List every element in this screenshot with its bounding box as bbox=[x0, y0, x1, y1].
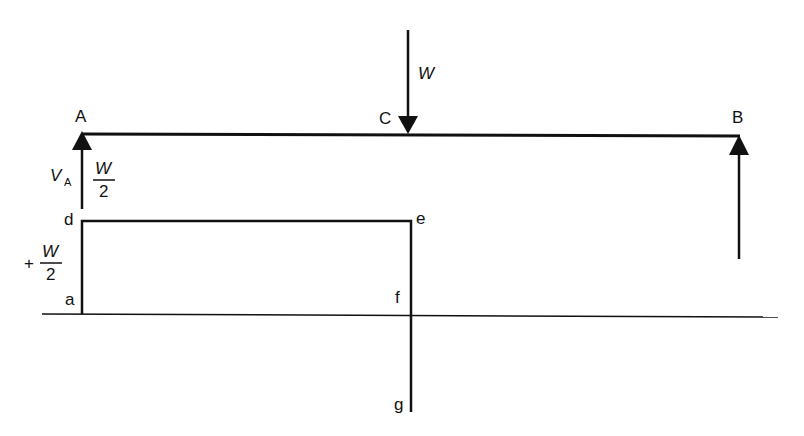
point-d-label: d bbox=[64, 210, 73, 229]
reaction-A-numerator: W bbox=[95, 159, 113, 178]
beam bbox=[82, 134, 740, 136]
reaction-A-denominator: 2 bbox=[99, 182, 108, 201]
point-g-label: g bbox=[394, 395, 403, 414]
point-A-label: A bbox=[75, 107, 87, 126]
point-B-label: B bbox=[732, 108, 743, 127]
shear-sign: + bbox=[24, 254, 34, 273]
point-e-label: e bbox=[416, 209, 425, 228]
reaction-A-subscript: A bbox=[64, 176, 72, 188]
point-f-label: f bbox=[395, 288, 400, 307]
shear-numerator: W bbox=[42, 242, 60, 261]
reaction-A-symbol: V bbox=[50, 166, 63, 185]
load-label: W bbox=[418, 64, 436, 83]
load-arrow-head-icon bbox=[398, 116, 418, 134]
shear-force-outline bbox=[82, 221, 411, 412]
point-C-label: C bbox=[379, 109, 391, 128]
point-a-label: a bbox=[65, 290, 75, 309]
shear-force-diagram: W C A V A W 2 B d e a f g + W 2 bbox=[0, 0, 804, 436]
shear-denominator: 2 bbox=[46, 265, 55, 284]
